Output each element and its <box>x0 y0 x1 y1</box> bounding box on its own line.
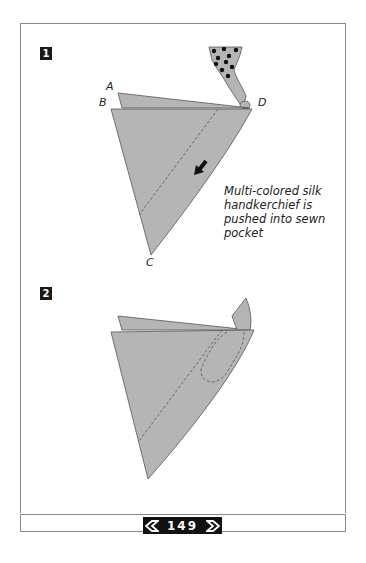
caption-line: handkerchief is <box>224 198 344 212</box>
step-2-badge: 2 <box>40 287 52 300</box>
point-label-b: B <box>99 96 107 109</box>
caption: Multi-colored silk handkerchief is pushe… <box>224 184 344 240</box>
caption-line: Multi-colored silk <box>224 184 344 198</box>
caption-line: pushed into sewn <box>224 212 344 226</box>
point-label-d: D <box>258 96 266 109</box>
caption-line: pocket <box>224 226 344 240</box>
diamond-right-arrow-icon[interactable] <box>206 520 220 532</box>
point-label-a: A <box>106 80 114 93</box>
page-number-box: 149 <box>143 517 222 534</box>
point-label-c: C <box>146 256 154 269</box>
page-number: 149 <box>167 519 198 533</box>
illustration <box>0 0 366 563</box>
diamond-left-arrow-icon[interactable] <box>145 520 159 532</box>
polka-dot-handkerchief-icon <box>209 47 250 109</box>
